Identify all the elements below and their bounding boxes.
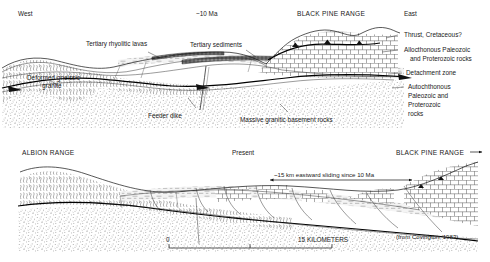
label-source-credit: (from Covington, 1983)	[396, 233, 458, 240]
label-allochthonous-line2: and Proterozoic rocks	[410, 55, 472, 62]
label-albion-range: ALBION RANGE	[22, 149, 75, 156]
label-black-pine-range-bottom: BLACK PINE RANGE	[396, 149, 464, 156]
label-time-10ma: ~10 Ma	[196, 10, 218, 17]
label-present: Present	[232, 149, 254, 156]
label-autochthonous-line3: Proterozoic	[408, 101, 441, 108]
label-tertiary-rhyolitic-lavas: Tertiary rhyolitic lavas	[86, 40, 147, 48]
label-scale-max: 15 KILOMETERS	[298, 236, 348, 243]
label-east: East	[404, 10, 417, 17]
label-massive-granitic-basement: Massive granitic basement rocks	[240, 116, 333, 124]
label-feeder-dike: Feeder dike	[148, 112, 182, 119]
label-autochthonous-line1: Autochthonous	[408, 83, 451, 90]
label-tertiary-sediments: Tertiary sediments	[190, 41, 242, 49]
label-eastward-sliding: ~15 km eastward sliding since 10 Ma	[274, 171, 375, 178]
label-allochthonous-line1: Allocthonous Paleozoic	[404, 46, 471, 53]
label-thrust-cretaceous: Thrust, Cretaceous?	[404, 31, 462, 38]
label-west: West	[18, 10, 33, 17]
label-detachment-zone: Detachment zone	[406, 69, 457, 76]
label-autochthonous-line2: Paleozoic and	[408, 92, 449, 99]
label-deformed-gneissic-granite-line1: Deformed gneissic	[27, 74, 81, 82]
label-scale-zero: 0	[166, 236, 170, 243]
geologic-cross-section-figure: West ~10 Ma BLACK PINE RANGE East Tertia…	[0, 0, 490, 262]
label-black-pine-range-top: BLACK PINE RANGE	[297, 10, 365, 17]
label-autochthonous-line4: rocks	[408, 110, 423, 117]
label-deformed-gneissic-granite-line2: granite	[42, 82, 62, 90]
